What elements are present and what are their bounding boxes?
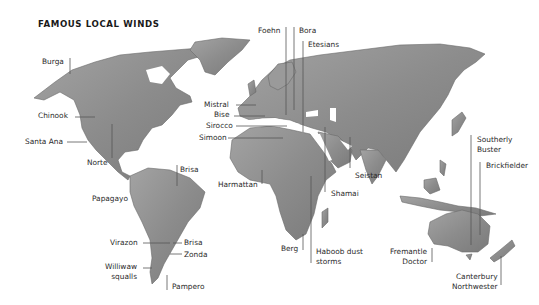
wind-label-harmattan: Harmattan: [218, 180, 258, 190]
tasmania: [466, 254, 472, 260]
wind-label-southerly-buster: SoutherlyBuster: [477, 135, 513, 155]
new-zealand: [490, 240, 515, 262]
caspian-sea: [330, 108, 336, 122]
wind-label-papagayo: Papagayo: [92, 194, 128, 204]
wind-label-canterbury-northwester: CanterburyNorthwester: [452, 272, 498, 292]
australia: [428, 210, 490, 252]
wind-label-brisa-south: Brisa: [184, 238, 203, 248]
wind-label-seistan: Seistan: [355, 171, 382, 181]
wind-label-mistral: Mistral: [204, 100, 229, 110]
wind-label-simoon: Simoon: [199, 133, 227, 143]
philippines: [440, 160, 446, 176]
wind-label-berg: Berg: [281, 244, 298, 254]
wind-label-norte: Norte: [87, 158, 108, 168]
wind-label-burga: Burga: [42, 57, 64, 67]
wind-label-pampero: Pampero: [172, 282, 205, 292]
madagascar: [322, 208, 328, 228]
wind-label-sirocco: Sirocco: [206, 121, 233, 131]
borneo: [424, 178, 440, 194]
wind-label-bora: Bora: [299, 26, 316, 36]
wind-label-foehn: Foehn: [258, 26, 280, 36]
wind-label-etesians: Etesians: [308, 40, 339, 50]
greenland: [190, 38, 250, 75]
wind-label-bise: Bise: [214, 110, 230, 120]
wind-label-haboob: Haboob duststorms: [316, 247, 363, 267]
japan: [452, 112, 466, 136]
world-map: [0, 0, 539, 305]
wind-label-chinook: Chinook: [38, 111, 68, 121]
wind-label-santa-ana: Santa Ana: [25, 137, 63, 147]
indonesia: [400, 196, 496, 216]
wind-label-shamai: Shamai: [331, 189, 359, 199]
wind-label-virazon: Virazon: [110, 238, 138, 248]
south-america: [130, 168, 205, 284]
wind-label-fremantle-doctor: FremantleDoctor: [390, 247, 427, 267]
wind-label-brickfielder: Brickfielder: [486, 161, 528, 171]
wind-label-brisa-north: Brisa: [180, 165, 199, 175]
wind-label-williwaw: Williwawsqualls: [105, 262, 137, 282]
wind-label-zonda: Zonda: [184, 250, 208, 260]
